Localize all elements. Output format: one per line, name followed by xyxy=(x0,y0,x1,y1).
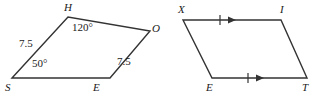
parallel-marks-layer xyxy=(220,15,264,83)
vertex-label-s: S xyxy=(5,82,11,93)
vertex-label-o: O xyxy=(152,23,160,34)
vertex-label-e: E xyxy=(93,82,100,93)
geometry-figure-canvas: H O S E 120° 50° 7.5 7.5 X I E T xyxy=(0,0,316,96)
angle-label-h: 120° xyxy=(72,22,93,33)
vertex-label-t: T xyxy=(302,82,308,93)
side-length-oe: 7.5 xyxy=(117,56,131,67)
parallel-arrow-icon xyxy=(228,16,236,23)
side-length-sh: 7.5 xyxy=(19,38,33,49)
parallelogram-xite-outline xyxy=(183,20,307,78)
parallel-arrow-icon xyxy=(256,74,264,81)
angle-label-s: 50° xyxy=(32,58,47,69)
vertex-label-i: I xyxy=(280,4,284,15)
geometry-vector-layer xyxy=(0,0,316,96)
vertex-label-h: H xyxy=(64,2,72,13)
vertex-label-e2: E xyxy=(206,82,213,93)
vertex-label-x: X xyxy=(178,4,185,15)
